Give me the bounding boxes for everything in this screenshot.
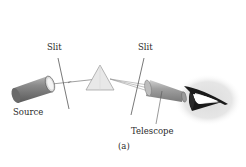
source-label: Source	[13, 107, 43, 117]
light-beam-dispersed-1	[110, 79, 148, 85]
light-beam-dispersed-2	[110, 79, 148, 88]
slit-left-label: Slit	[47, 42, 62, 52]
slit-right-label: Slit	[138, 42, 153, 52]
source-cylinder	[10, 75, 57, 104]
figure-caption: (a)	[118, 141, 130, 151]
telescope-label: Telescope	[131, 126, 174, 136]
spectroscope-diagram: Slit Slit Source Telescope (a)	[0, 0, 246, 167]
light-beam-dispersed-3	[110, 79, 148, 91]
telescope	[143, 80, 187, 103]
